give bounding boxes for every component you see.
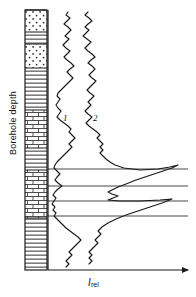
axes-group bbox=[48, 10, 188, 270]
log-curve-2 bbox=[83, 12, 178, 264]
lithology-bed-sandstone bbox=[25, 10, 47, 32]
well-log-figure: Borehole depth Irel 1 2 bbox=[0, 0, 196, 297]
lithology-column bbox=[25, 10, 47, 270]
lithology-bed-shale bbox=[25, 68, 47, 110]
lithology-bed-limestone bbox=[25, 170, 47, 218]
lithology-bed-shale bbox=[25, 148, 47, 170]
intensity-subscript: rel bbox=[91, 281, 99, 288]
intensity-axis-label: Irel bbox=[88, 277, 99, 288]
log-curve-1 bbox=[52, 12, 81, 267]
lithology-bed-sandstone bbox=[25, 44, 47, 68]
curve-label-1: 1 bbox=[63, 113, 68, 123]
log-curves-group bbox=[52, 12, 178, 267]
lithology-bed-shale bbox=[25, 32, 47, 44]
depth-axis-label: Borehole depth bbox=[8, 83, 18, 163]
figure-canvas bbox=[0, 0, 196, 297]
curve-label-2: 2 bbox=[93, 113, 98, 123]
lithology-bed-shale bbox=[25, 218, 47, 270]
marker-lines-group bbox=[48, 169, 188, 216]
lithology-bed-limestone bbox=[25, 110, 47, 148]
